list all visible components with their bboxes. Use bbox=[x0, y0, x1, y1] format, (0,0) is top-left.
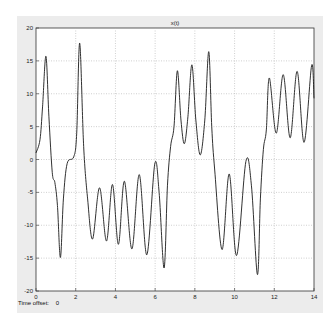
line-chart: 02468101214 -20-15-10-505101520 x(t) bbox=[0, 0, 335, 330]
chart-title: x(t) bbox=[171, 20, 180, 26]
axes-area[interactable] bbox=[36, 28, 314, 291]
y-tick-label: 10 bbox=[26, 91, 33, 97]
y-tick-label: 20 bbox=[26, 25, 33, 31]
y-tick-label: 5 bbox=[30, 124, 34, 130]
x-tick-label: 2 bbox=[74, 294, 78, 300]
x-tick-label: 10 bbox=[231, 294, 238, 300]
x-tick-label: 14 bbox=[311, 294, 318, 300]
y-tick-label: -15 bbox=[24, 255, 33, 261]
y-tick-label: -5 bbox=[28, 189, 34, 195]
y-tick-label: 0 bbox=[30, 157, 34, 163]
time-offset-label: Time offset: bbox=[18, 300, 49, 306]
x-tick-label: 12 bbox=[271, 294, 278, 300]
x-tick-label: 4 bbox=[114, 294, 118, 300]
x-tick-label: 8 bbox=[193, 294, 197, 300]
y-tick-label: -20 bbox=[24, 288, 33, 294]
x-tick-label: 6 bbox=[153, 294, 157, 300]
y-tick-label: -10 bbox=[24, 222, 33, 228]
time-offset-value: 0 bbox=[56, 300, 59, 306]
time-offset: Time offset: 0 bbox=[18, 300, 64, 306]
y-tick-label: 15 bbox=[26, 58, 33, 64]
